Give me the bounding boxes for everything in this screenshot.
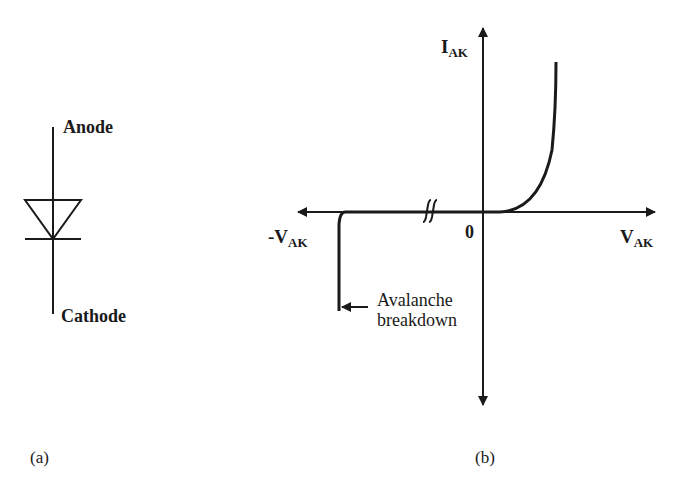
annotation-line1: Avalanche bbox=[377, 290, 453, 311]
breakdown-curve bbox=[339, 212, 345, 311]
x-axis-neg-label-main: -V bbox=[268, 226, 288, 247]
cathode-label: Cathode bbox=[61, 306, 126, 327]
diode-symbol bbox=[25, 127, 81, 314]
x-axis-pos-label-sub: AK bbox=[634, 235, 654, 250]
x-axis-neg-label-sub: AK bbox=[288, 235, 308, 250]
x-axis-pos-label-main: V bbox=[620, 226, 634, 247]
forward-curve bbox=[345, 62, 556, 212]
anode-label: Anode bbox=[63, 117, 113, 138]
caption-a: (a) bbox=[30, 448, 49, 468]
diagram-canvas bbox=[0, 0, 679, 498]
origin-label: 0 bbox=[465, 222, 474, 243]
annotation-line2: breakdown bbox=[377, 310, 457, 331]
x-axis-neg-label: -VAK bbox=[268, 226, 308, 251]
caption-b: (b) bbox=[475, 448, 495, 468]
iv-axes bbox=[298, 28, 655, 405]
y-axis-label-sub: AK bbox=[448, 45, 468, 60]
y-axis-label: IAK bbox=[441, 36, 468, 61]
iv-curve bbox=[339, 62, 556, 311]
x-axis-pos-label: VAK bbox=[620, 226, 653, 251]
